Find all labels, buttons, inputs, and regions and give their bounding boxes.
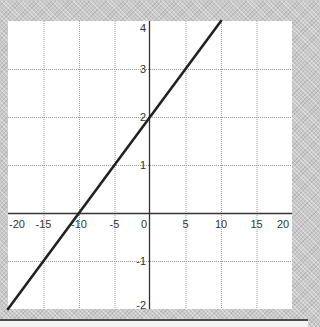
x-tick-label: 10 <box>215 218 227 230</box>
y-tick-label: -1 <box>136 255 146 267</box>
y-tick-label: 2 <box>140 111 146 123</box>
x-tick-label: 20 <box>277 218 289 230</box>
x-tick-label: 0 <box>141 218 147 230</box>
bottom-strip <box>0 321 308 327</box>
x-tick-label: -10 <box>71 218 87 230</box>
y-tick-label: 4 <box>140 22 146 34</box>
y-tick-label: 1 <box>140 159 146 171</box>
x-tick-label: 5 <box>182 218 188 230</box>
y-tick-label: -2 <box>136 299 146 311</box>
x-tick-label: 15 <box>250 218 262 230</box>
y-tick-label: 3 <box>140 63 146 75</box>
x-tick-label: -5 <box>110 218 120 230</box>
x-tick-label: -20 <box>9 218 25 230</box>
x-tick-label: -15 <box>36 218 52 230</box>
line-chart: -20-15-10-505101520 -2-11234 <box>0 0 308 327</box>
